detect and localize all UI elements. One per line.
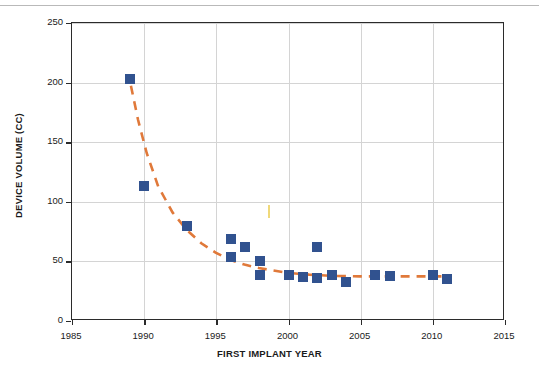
data-point-marker bbox=[312, 273, 322, 283]
y-tickmark bbox=[66, 142, 71, 143]
y-tickmark bbox=[66, 23, 71, 24]
data-point-marker bbox=[298, 272, 308, 282]
y-tick-label: 200 bbox=[33, 76, 63, 87]
gridline-horizontal bbox=[72, 261, 503, 262]
data-point-marker bbox=[125, 74, 135, 84]
y-tickmark bbox=[66, 261, 71, 262]
chart-figure: DEVICE VOLUME (CC) FIRST IMPLANT YEAR 05… bbox=[0, 0, 539, 374]
y-tick-label: 250 bbox=[33, 16, 63, 27]
data-point-marker bbox=[255, 270, 265, 280]
x-tick-label: 2015 bbox=[484, 330, 524, 341]
y-axis-title: DEVICE VOLUME (CC) bbox=[13, 86, 24, 246]
x-tick-label: 2005 bbox=[340, 330, 380, 341]
y-tickmark bbox=[66, 202, 71, 203]
y-tick-label: 50 bbox=[33, 254, 63, 265]
data-point-marker bbox=[312, 242, 322, 252]
stray-tick-mark bbox=[268, 205, 270, 218]
y-tick-label: 0 bbox=[33, 314, 63, 325]
data-point-marker bbox=[327, 270, 337, 280]
gridline-horizontal bbox=[72, 202, 503, 203]
y-tick-label: 100 bbox=[33, 195, 63, 206]
gridline-vertical bbox=[144, 23, 145, 319]
gridline-horizontal bbox=[72, 83, 503, 84]
x-tickmark bbox=[433, 320, 434, 325]
x-tickmark bbox=[144, 320, 145, 325]
plot-area bbox=[71, 22, 504, 320]
gridline-vertical bbox=[361, 23, 362, 319]
data-point-marker bbox=[240, 242, 250, 252]
y-tick-label: 150 bbox=[33, 135, 63, 146]
x-tickmark bbox=[72, 320, 73, 325]
x-tickmark bbox=[361, 320, 362, 325]
data-point-marker bbox=[182, 221, 192, 231]
x-tickmark bbox=[216, 320, 217, 325]
y-tickmark bbox=[66, 321, 71, 322]
x-tick-label: 1990 bbox=[123, 330, 163, 341]
gridline-horizontal bbox=[72, 142, 503, 143]
data-point-marker bbox=[139, 181, 149, 191]
x-tick-label: 2000 bbox=[268, 330, 308, 341]
gridline-horizontal bbox=[72, 23, 503, 24]
data-point-marker bbox=[428, 270, 438, 280]
data-point-marker bbox=[385, 271, 395, 281]
data-point-marker bbox=[442, 274, 452, 284]
x-tick-label: 1995 bbox=[195, 330, 235, 341]
x-axis-title: FIRST IMPLANT YEAR bbox=[0, 348, 539, 359]
x-tick-label: 1985 bbox=[51, 330, 91, 341]
y-tickmark bbox=[66, 83, 71, 84]
data-point-marker bbox=[284, 270, 294, 280]
gridline-vertical bbox=[216, 23, 217, 319]
data-point-marker bbox=[255, 256, 265, 266]
data-point-marker bbox=[226, 252, 236, 262]
data-point-marker bbox=[226, 234, 236, 244]
x-tickmark bbox=[289, 320, 290, 325]
data-point-marker bbox=[341, 277, 351, 287]
x-tickmark bbox=[505, 320, 506, 325]
x-tick-label: 2010 bbox=[412, 330, 452, 341]
data-point-marker bbox=[370, 270, 380, 280]
